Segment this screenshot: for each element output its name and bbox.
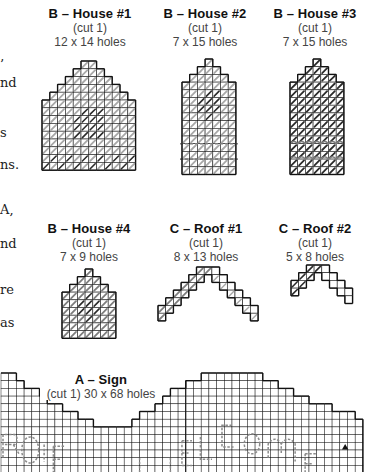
edge-text-fragment: s [0,126,7,139]
house-4-label: B – House #4(cut 1)7 x 9 holes [29,222,149,263]
piece-hole-size: 7 x 9 holes [29,251,149,263]
piece-title: B – House #1 [30,7,150,20]
sign-hole-size: (cut 1) 30 x 68 holes [40,388,162,400]
edge-text-fragment: nd [0,76,17,89]
piece-hole-size: 5 x 8 holes [255,251,375,263]
piece-cut-count: (cut 1) [145,22,265,34]
piece-title: B – House #2 [145,7,265,20]
house-3-chart [289,58,345,176]
edge-text-fragment: re [0,283,14,296]
house-2-chart [181,58,237,176]
house-2-label: B – House #2(cut 1)7 x 15 holes [145,7,265,48]
house-1-chart [41,60,137,171]
piece-hole-size: 7 x 15 holes [145,36,265,48]
piece-hole-size: 7 x 15 holes [255,36,375,48]
edge-text-fragment: nd [0,237,17,250]
roof-1-chart [157,266,259,330]
piece-title: B – House #3 [255,7,375,20]
roof-1-label: C – Roof #1(cut 1)8 x 13 holes [146,222,266,263]
piece-cut-count: (cut 1) [146,237,266,249]
piece-hole-size: 8 x 13 holes [146,251,266,263]
roof-2-label: C – Roof #2(cut 1)5 x 8 holes [255,222,375,263]
house-3-label: B – House #3(cut 1)7 x 15 holes [255,7,375,48]
piece-title: B – House #4 [29,222,149,235]
house-4-grid [61,268,117,339]
house-4-chart [61,268,117,339]
house-3-grid [289,58,345,176]
edge-text-fragment: ’ [0,58,4,71]
piece-cut-count: (cut 1) [30,22,150,34]
house-1-grid [41,60,137,171]
piece-title: C – Roof #2 [255,222,375,235]
piece-cut-count: (cut 1) [255,237,375,249]
house-1-label: B – House #1(cut 1)12 x 14 holes [30,7,150,48]
edge-text-fragment: ns. [0,158,19,171]
roof-2-grid [290,264,354,305]
roof-2-chart [290,264,354,305]
piece-cut-count: (cut 1) [255,22,375,34]
house-2-grid [181,58,237,176]
sign-label: A – Sign(cut 1) 30 x 68 holes [40,373,162,400]
piece-hole-size: 12 x 14 holes [30,36,150,48]
piece-title: C – Roof #1 [146,222,266,235]
edge-text-fragment: A, [0,203,14,216]
edge-text-fragment: as [0,316,14,329]
sign-title: A – Sign [40,373,162,386]
piece-cut-count: (cut 1) [29,237,149,249]
roof-1-grid [157,266,259,330]
